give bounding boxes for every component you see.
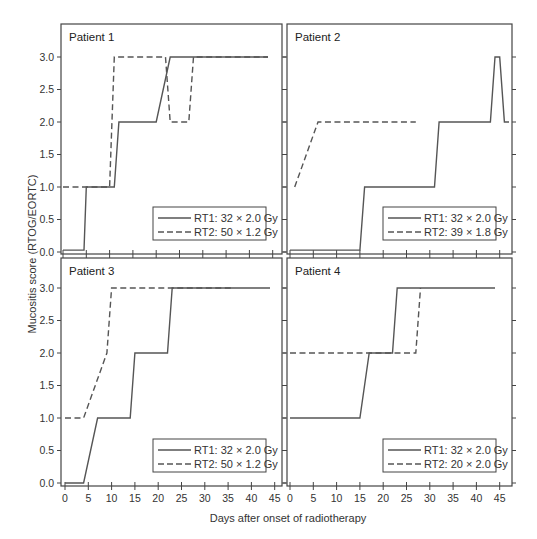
y-tick-label: 0.5	[39, 444, 54, 456]
legend: RT1: 32 × 2.0 GyRT2: 50 × 1.2 Gy	[153, 439, 278, 472]
panel-1: 0.00.51.01.52.02.53.0Patient 1RT1: 32 × …	[39, 24, 286, 258]
y-tick-label: 1.0	[39, 181, 54, 193]
legend-entry: RT1: 32 × 2.0 Gy	[194, 444, 278, 456]
mucositis-chart: 0.00.51.01.52.02.53.0Patient 1RT1: 32 × …	[0, 0, 537, 539]
x-axis-title: Days after onset of radiotherapy	[210, 512, 367, 524]
y-tick-label: 1.5	[39, 379, 54, 391]
legend: RT1: 32 × 2.0 GyRT2: 20 × 2.0 Gy	[383, 439, 508, 472]
legend-entry: RT2: 50 × 1.2 Gy	[194, 458, 278, 470]
x-tick-label: 40	[471, 492, 483, 504]
legend: RT1: 32 × 2.0 GyRT2: 39 × 1.8 Gy	[383, 207, 508, 240]
x-tick-label: 5	[85, 492, 91, 504]
x-tick-label: 5	[310, 492, 316, 504]
y-tick-label: 2.0	[39, 347, 54, 359]
x-tick-label: 15	[129, 492, 141, 504]
y-tick-label: 0.0	[39, 477, 54, 489]
y-tick-label: 2.5	[39, 83, 54, 95]
x-tick-label: 15	[354, 492, 366, 504]
y-tick-label: 1.5	[39, 148, 54, 160]
x-tick-label: 35	[222, 492, 234, 504]
y-tick-label: 3.0	[39, 282, 54, 294]
panel-2: Patient 2RT1: 32 × 2.0 GyRT2: 39 × 1.8 G…	[283, 24, 516, 258]
panel-3: 0.00.51.01.52.02.53.0051015202530354045P…	[39, 258, 286, 504]
rt2-line	[295, 122, 416, 187]
legend-entry: RT1: 32 × 2.0 Gy	[424, 212, 508, 224]
x-tick-label: 30	[424, 492, 436, 504]
x-tick-label: 10	[331, 492, 343, 504]
panel-title: Patient 4	[295, 265, 341, 277]
y-tick-label: 0.5	[39, 213, 54, 225]
x-tick-label: 20	[152, 492, 164, 504]
y-tick-label: 0.0	[39, 246, 54, 258]
legend-entry: RT1: 32 × 2.0 Gy	[194, 212, 278, 224]
x-tick-label: 0	[62, 492, 68, 504]
x-tick-label: 0	[287, 492, 293, 504]
rt2-line	[290, 288, 421, 353]
x-tick-label: 40	[246, 492, 258, 504]
x-tick-label: 35	[447, 492, 459, 504]
x-tick-label: 45	[494, 492, 506, 504]
legend: RT1: 32 × 2.0 GyRT2: 50 × 1.2 Gy	[153, 207, 278, 240]
x-tick-label: 25	[401, 492, 413, 504]
x-tick-label: 25	[176, 492, 188, 504]
panel-title: Patient 1	[69, 31, 114, 43]
y-tick-label: 2.0	[39, 116, 54, 128]
y-tick-label: 2.5	[39, 314, 54, 326]
legend-entry: RT1: 32 × 2.0 Gy	[424, 444, 508, 456]
y-tick-label: 1.0	[39, 412, 54, 424]
legend-entry: RT2: 20 × 2.0 Gy	[424, 458, 508, 470]
legend-entry: RT2: 50 × 1.2 Gy	[194, 226, 278, 238]
legend-entry: RT2: 39 × 1.8 Gy	[424, 226, 508, 238]
panel-4: 051015202530354045Patient 4RT1: 32 × 2.0…	[283, 258, 516, 504]
x-tick-label: 20	[377, 492, 389, 504]
panel-title: Patient 2	[295, 31, 340, 43]
x-tick-label: 45	[269, 492, 281, 504]
panel-title: Patient 3	[69, 265, 114, 277]
x-tick-label: 30	[199, 492, 211, 504]
y-tick-label: 3.0	[39, 51, 54, 63]
y-axis-title: Mucositis score (RTOG/EORTC)	[26, 175, 38, 334]
x-tick-label: 10	[106, 492, 118, 504]
